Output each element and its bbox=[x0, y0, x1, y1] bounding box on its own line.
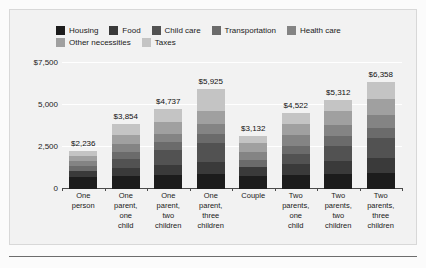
bar-segment[interactable] bbox=[197, 124, 225, 134]
bar-segment[interactable] bbox=[197, 174, 225, 189]
legend-swatch-child-care bbox=[152, 26, 161, 35]
x-axis-tick-label: One parent, one child bbox=[105, 191, 148, 231]
bar-stack[interactable] bbox=[154, 109, 182, 189]
bar-segment[interactable] bbox=[324, 146, 352, 161]
bar-segment[interactable] bbox=[197, 134, 225, 143]
bar-segment[interactable] bbox=[112, 176, 140, 189]
bar-stack[interactable] bbox=[197, 89, 225, 189]
legend-swatch-transportation bbox=[212, 26, 221, 35]
bar-segment[interactable] bbox=[324, 136, 352, 145]
legend-label-health-care: Health care bbox=[300, 26, 341, 35]
legend-item-health-care: Health care bbox=[287, 26, 341, 35]
x-axis-tick-label: One parent, three children bbox=[190, 191, 233, 231]
bar-stack[interactable] bbox=[239, 136, 267, 189]
bar-column[interactable]: $6,358 bbox=[360, 62, 403, 189]
legend-item-food: Food bbox=[109, 26, 140, 35]
legend-swatch-other-necessities bbox=[56, 38, 65, 47]
bar-segment[interactable] bbox=[282, 135, 310, 145]
bar-segment[interactable] bbox=[282, 175, 310, 189]
legend-label-housing: Housing bbox=[69, 26, 98, 35]
bar-segment[interactable] bbox=[367, 115, 395, 128]
bottom-rule bbox=[9, 256, 417, 257]
bar-segment[interactable] bbox=[367, 158, 395, 173]
bar-column[interactable]: $3,132 bbox=[232, 62, 275, 189]
x-axis-tick-label: Two parents, three children bbox=[360, 191, 403, 231]
bar-value-label: $4,737 bbox=[156, 97, 180, 106]
bar-segment[interactable] bbox=[239, 152, 267, 160]
bar-segment[interactable] bbox=[324, 111, 352, 125]
y-axis-tick-label: 0 bbox=[54, 184, 58, 193]
x-axis-tick-mark bbox=[402, 188, 403, 191]
x-axis-tick-labels: One personOne parent, one childOne paren… bbox=[62, 191, 402, 231]
bar-segment[interactable] bbox=[367, 173, 395, 189]
bar-segment[interactable] bbox=[282, 113, 310, 124]
bar-segment[interactable] bbox=[324, 125, 352, 136]
x-axis-tick-label: Two parents, one child bbox=[275, 191, 318, 231]
x-axis-tick-label: Couple bbox=[232, 191, 275, 231]
y-axis-tick-label: 5,000 bbox=[38, 100, 58, 109]
bar-column[interactable]: $2,236 bbox=[62, 62, 105, 189]
legend-label-taxes: Taxes bbox=[155, 38, 176, 47]
bar-segment[interactable] bbox=[239, 160, 267, 167]
bar-value-label: $3,854 bbox=[114, 112, 138, 121]
bar-stack[interactable] bbox=[112, 124, 140, 189]
bar-segment[interactable] bbox=[154, 109, 182, 122]
bar-segment[interactable] bbox=[112, 168, 140, 175]
bar-segment[interactable] bbox=[154, 165, 182, 174]
bar-column[interactable]: $3,854 bbox=[105, 62, 148, 189]
chart-figure: Housing Food Child care Transportation H… bbox=[0, 0, 426, 268]
bar-column[interactable]: $5,925 bbox=[190, 62, 233, 189]
bar-segment[interactable] bbox=[197, 143, 225, 163]
y-axis-tick-labels: $7,5005,0002,5000 bbox=[14, 62, 58, 188]
bar-segment[interactable] bbox=[197, 111, 225, 124]
bar-stack[interactable] bbox=[324, 100, 352, 189]
legend-row-2: Other necessities Taxes bbox=[56, 38, 376, 47]
bar-segment[interactable] bbox=[154, 134, 182, 143]
bar-column[interactable]: $5,312 bbox=[317, 62, 360, 189]
legend-swatch-health-care bbox=[287, 26, 296, 35]
bar-segment[interactable] bbox=[154, 142, 182, 150]
x-axis-tick-label: One parent, two children bbox=[147, 191, 190, 231]
bar-segment[interactable] bbox=[239, 143, 267, 152]
bar-segment[interactable] bbox=[112, 144, 140, 152]
legend-label-other-necessities: Other necessities bbox=[69, 38, 131, 47]
bar-value-label: $2,236 bbox=[71, 139, 95, 148]
bar-segment[interactable] bbox=[197, 89, 225, 110]
bar-segment[interactable] bbox=[324, 100, 352, 111]
bar-segment[interactable] bbox=[324, 161, 352, 174]
bar-segment[interactable] bbox=[154, 175, 182, 189]
bar-segment[interactable] bbox=[239, 176, 267, 189]
bar-segment[interactable] bbox=[154, 122, 182, 133]
bar-segment[interactable] bbox=[197, 162, 225, 174]
bar-segment[interactable] bbox=[112, 152, 140, 159]
bar-segment[interactable] bbox=[69, 177, 97, 189]
legend-row-1: Housing Food Child care Transportation H… bbox=[56, 26, 376, 35]
bar-segment[interactable] bbox=[112, 135, 140, 144]
bar-segment[interactable] bbox=[239, 167, 267, 176]
legend-label-transportation: Transportation bbox=[225, 26, 276, 35]
bar-segment[interactable] bbox=[367, 138, 395, 158]
bar-column[interactable]: $4,522 bbox=[275, 62, 318, 189]
bar-value-label: $3,132 bbox=[241, 124, 265, 133]
bar-segment[interactable] bbox=[324, 174, 352, 189]
bar-value-label: $5,925 bbox=[199, 77, 223, 86]
bar-value-label: $4,522 bbox=[284, 101, 308, 110]
bar-column[interactable]: $4,737 bbox=[147, 62, 190, 189]
bar-segment[interactable] bbox=[112, 159, 140, 168]
bar-segment[interactable] bbox=[367, 128, 395, 138]
bar-segment[interactable] bbox=[282, 164, 310, 175]
bar-stack[interactable] bbox=[282, 113, 310, 189]
bar-segment[interactable] bbox=[112, 124, 140, 134]
y-axis-tick-label: 2,500 bbox=[38, 142, 58, 151]
x-axis-tick-label: Two parents, two children bbox=[317, 191, 360, 231]
legend-swatch-food bbox=[109, 26, 118, 35]
bar-stack[interactable] bbox=[69, 151, 97, 189]
bar-segment[interactable] bbox=[154, 150, 182, 165]
bar-segment[interactable] bbox=[367, 99, 395, 115]
bar-segment[interactable] bbox=[282, 124, 310, 136]
bar-segment[interactable] bbox=[367, 82, 395, 99]
bar-segment[interactable] bbox=[282, 154, 310, 163]
bar-segment[interactable] bbox=[282, 146, 310, 155]
bar-stack[interactable] bbox=[367, 82, 395, 189]
bar-value-label: $6,358 bbox=[369, 70, 393, 79]
